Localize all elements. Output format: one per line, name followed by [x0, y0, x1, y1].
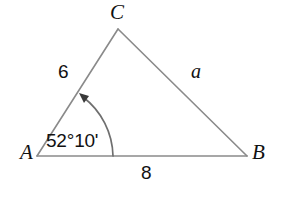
- triangle-side-cb: [118, 29, 247, 156]
- geometry-figure: C A B 6 a 8 52°10': [0, 0, 281, 199]
- side-length-ac: 6: [58, 62, 69, 81]
- vertex-label-c: C: [110, 2, 124, 23]
- vertex-label-b: B: [252, 142, 265, 163]
- vertex-label-a: A: [20, 142, 33, 163]
- side-length-ab: 8: [141, 163, 152, 182]
- angle-measure-label: 52°10': [46, 131, 98, 150]
- side-length-cb: a: [191, 61, 201, 81]
